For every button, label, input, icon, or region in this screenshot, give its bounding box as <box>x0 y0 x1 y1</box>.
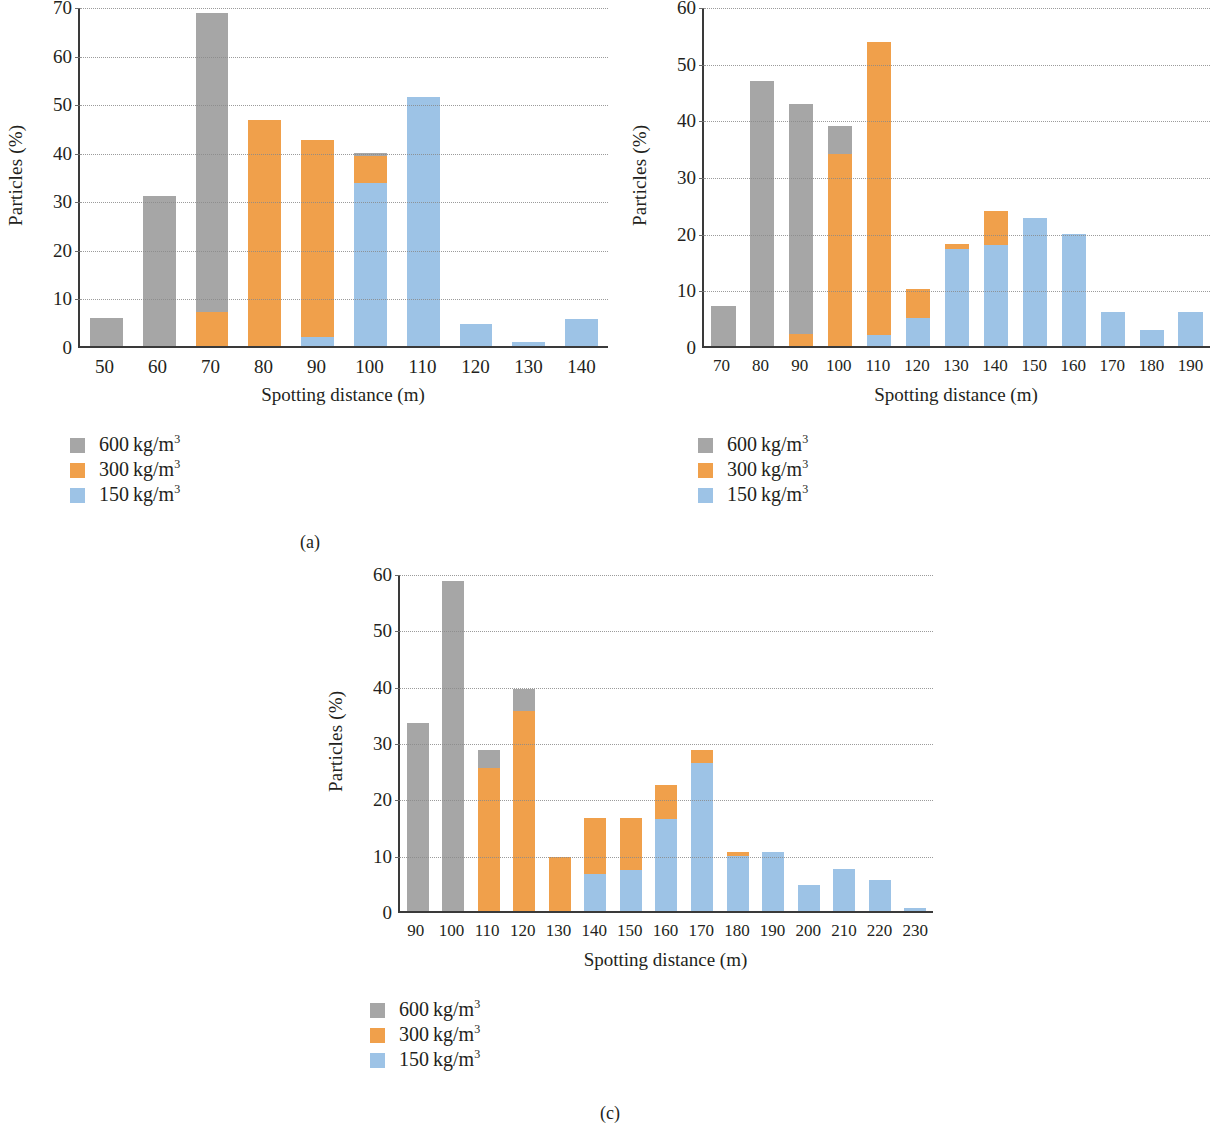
stacked-bar[interactable] <box>407 723 429 911</box>
legend-item[interactable]: 600 kg/m3 <box>70 432 180 457</box>
bar-segment <box>196 13 229 312</box>
x-tick-label: 70 <box>702 356 741 376</box>
legend-item[interactable]: 600 kg/m3 <box>698 432 808 457</box>
bar-segment <box>828 154 852 346</box>
y-tick-mark <box>75 57 80 58</box>
y-tick-label: 50 <box>677 54 696 76</box>
grid-line <box>400 688 933 689</box>
legend-item[interactable]: 600 kg/m3 <box>370 997 480 1022</box>
stacked-bar[interactable] <box>691 750 713 911</box>
stacked-bar[interactable] <box>620 818 642 911</box>
stacked-bar[interactable] <box>354 153 387 346</box>
stacked-bar[interactable] <box>828 126 852 346</box>
bar-segment <box>90 318 123 346</box>
bar-segment <box>984 211 1008 245</box>
stacked-bar[interactable] <box>565 319 598 346</box>
y-tick-label: 50 <box>53 94 72 116</box>
stacked-bar[interactable] <box>301 140 334 346</box>
y-tick-mark <box>75 8 80 9</box>
legend-item[interactable]: 300 kg/m3 <box>370 1022 480 1047</box>
subplot-caption-a: (a) <box>260 532 360 553</box>
bar-segment <box>143 196 176 346</box>
y-tick-label: 70 <box>53 0 72 19</box>
x-tick-label: 110 <box>469 921 505 941</box>
x-tick-label: 100 <box>343 356 396 378</box>
x-tick-label: 120 <box>449 356 502 378</box>
legend-item[interactable]: 300 kg/m3 <box>698 457 808 482</box>
stacked-bar[interactable] <box>904 908 926 911</box>
bar-slot <box>450 8 503 346</box>
stacked-bar[interactable] <box>1101 312 1125 346</box>
legend-item[interactable]: 150 kg/m3 <box>70 482 180 507</box>
bar-segment <box>711 306 735 346</box>
stacked-bar[interactable] <box>1023 218 1047 346</box>
stacked-bar[interactable] <box>143 196 176 346</box>
bar-slot <box>471 575 507 911</box>
bar-segment <box>762 852 784 911</box>
x-tick-label: 130 <box>541 921 577 941</box>
bar-segment <box>407 723 429 911</box>
legend-item[interactable]: 300 kg/m3 <box>70 457 180 482</box>
x-axis-ticks-a: 5060708090100110120130140 <box>78 356 608 378</box>
stacked-bar[interactable] <box>945 244 969 346</box>
legend-swatch-icon <box>698 488 713 503</box>
axes-c <box>398 575 933 913</box>
plot-area-c: Particles (%) 0102030405060 901001101201… <box>300 565 950 965</box>
stacked-bar[interactable] <box>906 289 930 346</box>
chart-panel-c: Particles (%) 0102030405060 901001101201… <box>300 565 950 1130</box>
grid-line <box>704 65 1210 66</box>
x-tick-label: 130 <box>936 356 975 376</box>
legend-item[interactable]: 150 kg/m3 <box>698 482 808 507</box>
stacked-bar[interactable] <box>727 852 749 911</box>
plot-area-a: Particles (%) 010203040506070 5060708090… <box>0 0 620 400</box>
x-tick-label: 140 <box>976 356 1015 376</box>
legend-item[interactable]: 150 kg/m3 <box>370 1047 480 1072</box>
y-tick-mark <box>699 121 704 122</box>
x-tick-label: 90 <box>398 921 434 941</box>
grid-line <box>80 57 608 58</box>
bar-slot <box>186 8 239 346</box>
bar-segment <box>1140 330 1164 346</box>
subplot-caption-c: (c) <box>560 1103 660 1124</box>
stacked-bar[interactable] <box>711 306 735 346</box>
grid-line <box>80 299 608 300</box>
bar-slot <box>80 8 133 346</box>
bar-slot <box>826 575 862 911</box>
bar-segment <box>691 763 713 911</box>
stacked-bar[interactable] <box>1140 330 1164 346</box>
stacked-bar[interactable] <box>1062 234 1086 346</box>
stacked-bar[interactable] <box>90 318 123 346</box>
x-axis-label-c: Spotting distance (m) <box>398 949 933 971</box>
bar-slot <box>578 575 614 911</box>
stacked-bar[interactable] <box>460 324 493 346</box>
legend-swatch-icon <box>70 438 85 453</box>
stacked-bar[interactable] <box>869 880 891 911</box>
stacked-bar[interactable] <box>407 97 440 346</box>
stacked-bar[interactable] <box>584 818 606 911</box>
bars-container-b <box>704 8 1210 346</box>
stacked-bar[interactable] <box>798 885 820 911</box>
stacked-bar[interactable] <box>762 852 784 911</box>
stacked-bar[interactable] <box>549 857 571 911</box>
x-tick-label: 190 <box>1171 356 1210 376</box>
x-tick-label: 170 <box>683 921 719 941</box>
grid-line <box>704 235 1210 236</box>
stacked-bar[interactable] <box>478 750 500 911</box>
stacked-bar[interactable] <box>196 13 229 346</box>
bars-container-a <box>80 8 608 346</box>
stacked-bar[interactable] <box>833 869 855 911</box>
legend-label: 150 kg/m3 <box>99 482 180 506</box>
stacked-bar[interactable] <box>512 342 545 346</box>
x-tick-label: 180 <box>1132 356 1171 376</box>
bar-segment <box>1101 312 1125 346</box>
bar-segment <box>1178 312 1202 346</box>
legend-label: 300 kg/m3 <box>727 457 808 481</box>
stacked-bar[interactable] <box>984 211 1008 346</box>
y-tick-label: 20 <box>677 224 696 246</box>
grid-line <box>80 105 608 106</box>
stacked-bar[interactable] <box>1178 312 1202 346</box>
stacked-bar[interactable] <box>789 104 813 346</box>
bar-slot <box>436 575 472 911</box>
stacked-bar[interactable] <box>867 42 891 346</box>
stacked-bar[interactable] <box>655 785 677 911</box>
